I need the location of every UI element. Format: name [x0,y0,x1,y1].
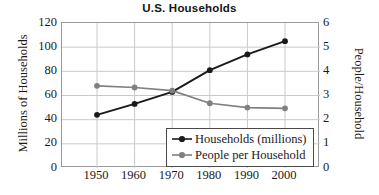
x-axis-ticks: 195019601970198019902000 [61,169,319,189]
x-axis-tick-label: 1950 [76,169,116,182]
legend-item: People per Household [171,147,306,163]
y-axis-left-tick-label: 40 [17,112,57,125]
y-axis-left-tick-label: 100 [17,40,57,53]
chart-title: U.S. Households [0,2,379,14]
x-axis-tick-label: 1970 [151,169,191,182]
y-axis-right-tick-label: 0 [323,161,363,174]
x-axis-tick-label: 1980 [189,169,229,182]
y-axis-right-tick-label: 6 [323,16,363,29]
chart-container: U.S. Households Millions of Households P… [0,0,379,195]
y-axis-right-tick-label: 5 [323,40,363,53]
y-axis-right-tick-label: 3 [323,88,363,101]
x-axis-tick-label: 1960 [114,169,154,182]
legend-marker-households [171,133,193,145]
chart-legend: Households (millions) People per Househo… [166,128,314,167]
x-axis-tick-label: 2000 [264,169,304,182]
y-axis-left-tick-label: 0 [17,161,57,174]
legend-label-households: Households (millions) [193,132,306,147]
x-axis-tick-label: 1990 [226,169,266,182]
y-axis-right-tick-label: 4 [323,64,363,77]
y-axis-right-tick-label: 2 [323,112,363,125]
y-axis-right-tick-label: 1 [323,136,363,149]
y-axis-left-ticks: 020406080100120 [14,22,57,167]
y-axis-left-tick-label: 20 [17,136,57,149]
legend-item: Households (millions) [171,131,306,147]
legend-marker-people-per-household [171,149,193,161]
y-axis-left-tick-label: 60 [17,88,57,101]
y-axis-right-ticks: 0123456 [323,22,363,167]
y-axis-left-tick-label: 80 [17,64,57,77]
legend-label-people-per-household: People per Household [193,148,305,163]
y-axis-left-tick-label: 120 [17,16,57,29]
